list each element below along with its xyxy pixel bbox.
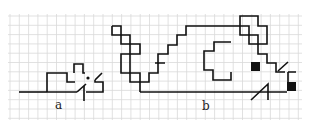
figure-b-tail-stairs (112, 26, 165, 92)
figure-canvas: a b (0, 0, 310, 136)
figure-b-inner-shape (204, 42, 231, 80)
figure-b-label: b (202, 99, 210, 113)
figure-b-mouse (112, 16, 296, 100)
figure-b-eye (251, 62, 260, 71)
figure-drawing (0, 0, 310, 136)
figure-a-label: a (55, 98, 62, 112)
figure-a-eye (86, 76, 89, 79)
figure-b-nose (287, 82, 296, 91)
figure-b-ear (240, 16, 267, 44)
figure-a-mouse (19, 64, 103, 101)
